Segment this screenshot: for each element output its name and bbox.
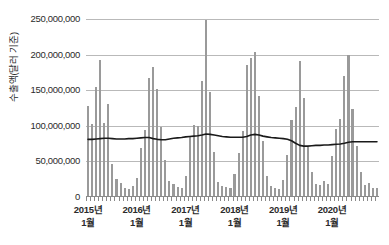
x-axis-tick-mark (102, 197, 103, 201)
x-axis-tick-mark (326, 197, 327, 201)
x-label-month: 1월 (158, 216, 214, 229)
x-axis-tick-marks (86, 197, 379, 201)
x-axis-tick-mark (241, 197, 242, 201)
x-axis-tick-mark (237, 197, 238, 201)
x-axis-tick-mark (212, 197, 213, 201)
x-label-year: 2018년 (207, 203, 263, 216)
x-axis-tick-mark (306, 197, 307, 201)
x-axis-tick-mark (155, 197, 156, 201)
x-axis-tick-mark (147, 197, 148, 201)
x-label-month: 1월 (255, 216, 311, 229)
x-axis-tick-mark (159, 197, 160, 201)
x-axis-tick-labels: 2015년1월2016년1월2017년1월2018년1월2019년1월2020년… (86, 203, 379, 243)
x-axis-tick-mark (346, 197, 347, 201)
x-axis-tick-mark (167, 197, 168, 201)
plot-area (86, 19, 379, 197)
x-axis-tick-label: 2018년1월 (207, 203, 263, 229)
y-axis-tick-label: 50,000,000 (0, 156, 80, 166)
x-axis-tick-mark (192, 197, 193, 201)
x-axis-tick-label: 2016년1월 (109, 203, 165, 229)
x-axis-tick-mark (330, 197, 331, 201)
x-label-year: 2017년 (158, 203, 214, 216)
y-axis-tick-label: 0 (0, 192, 80, 202)
x-label-year: 2015년 (60, 203, 116, 216)
x-axis-tick-mark (318, 197, 319, 201)
x-axis-tick-mark (302, 197, 303, 201)
x-label-month: 1월 (207, 216, 263, 229)
x-axis-tick-label: 2017년1월 (158, 203, 214, 229)
x-axis-tick-mark (273, 197, 274, 201)
x-axis-tick-label: 2019년1월 (255, 203, 311, 229)
x-label-month: 1월 (109, 216, 165, 229)
x-axis-tick-mark (110, 197, 111, 201)
x-axis-tick-mark (249, 197, 250, 201)
x-axis-tick-mark (216, 197, 217, 201)
x-axis-tick-mark (143, 197, 144, 201)
x-axis-tick-mark (261, 197, 262, 201)
x-axis-tick-mark (359, 197, 360, 201)
x-axis-tick-mark (269, 197, 270, 201)
x-axis-tick-mark (106, 197, 107, 201)
x-axis-tick-mark (204, 197, 205, 201)
x-axis-tick-mark (289, 197, 290, 201)
x-axis-tick-label: 2015년1월 (60, 203, 116, 229)
x-axis-tick-mark (131, 197, 132, 201)
x-axis-tick-mark (334, 197, 335, 201)
y-axis-tick-label: 200,000,000 (0, 50, 80, 60)
x-axis-tick-mark (298, 197, 299, 201)
x-axis-tick-mark (90, 197, 91, 201)
x-axis-tick-mark (127, 197, 128, 201)
export-value-chart: 수출액(달러 기준) 050,000,000100,000,000150,000… (0, 0, 389, 245)
x-label-month: 1월 (304, 216, 360, 229)
x-axis-tick-mark (180, 197, 181, 201)
x-axis-tick-mark (188, 197, 189, 201)
x-axis-tick-mark (208, 197, 209, 201)
y-axis-tick-label: 150,000,000 (0, 85, 80, 95)
x-axis-tick-mark (119, 197, 120, 201)
x-axis-tick-mark (351, 197, 352, 201)
x-label-year: 2020년 (304, 203, 360, 216)
x-axis-tick-mark (367, 197, 368, 201)
x-axis-tick-mark (338, 197, 339, 201)
x-axis-tick-mark (139, 197, 140, 201)
x-axis-tick-mark (184, 197, 185, 201)
trend-line-series (86, 19, 379, 197)
x-axis-tick-mark (265, 197, 266, 201)
x-axis-tick-mark (135, 197, 136, 201)
x-axis-tick-mark (98, 197, 99, 201)
x-axis-tick-mark (322, 197, 323, 201)
y-axis-tick-label: 100,000,000 (0, 121, 80, 131)
x-axis-tick-mark (228, 197, 229, 201)
x-axis-tick-mark (123, 197, 124, 201)
x-axis-tick-label: 2020년1월 (304, 203, 360, 229)
x-axis-tick-mark (281, 197, 282, 201)
x-axis-tick-mark (363, 197, 364, 201)
x-axis-tick-mark (314, 197, 315, 201)
x-label-year: 2019년 (255, 203, 311, 216)
x-axis-tick-mark (355, 197, 356, 201)
x-axis-tick-mark (233, 197, 234, 201)
x-label-year: 2016년 (109, 203, 165, 216)
x-axis-tick-mark (245, 197, 246, 201)
x-axis-tick-mark (277, 197, 278, 201)
y-axis-tick-label: 250,000,000 (0, 14, 80, 24)
x-axis-tick-mark (371, 197, 372, 201)
x-axis-tick-mark (114, 197, 115, 201)
x-axis-tick-mark (86, 197, 87, 201)
x-axis-tick-mark (224, 197, 225, 201)
x-axis-tick-mark (294, 197, 295, 201)
x-axis-tick-mark (151, 197, 152, 201)
x-axis-tick-mark (342, 197, 343, 201)
x-axis-tick-mark (171, 197, 172, 201)
x-axis-tick-mark (176, 197, 177, 201)
x-axis-tick-mark (200, 197, 201, 201)
x-axis-tick-mark (257, 197, 258, 201)
x-axis-tick-mark (285, 197, 286, 201)
x-axis-tick-mark (220, 197, 221, 201)
x-label-month: 1월 (60, 216, 116, 229)
x-axis-tick-mark (94, 197, 95, 201)
x-axis-tick-mark (163, 197, 164, 201)
x-axis-tick-mark (196, 197, 197, 201)
x-axis-tick-mark (375, 197, 376, 201)
x-axis-tick-mark (310, 197, 311, 201)
